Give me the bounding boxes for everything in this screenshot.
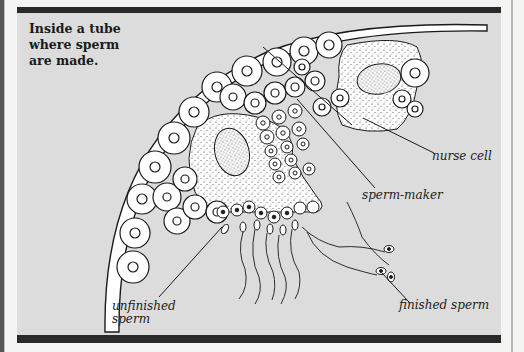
title-line-3: are made.: [29, 53, 189, 69]
label-nurse-cell: nurse cell: [432, 149, 492, 163]
label-finished-sperm: finished sperm: [399, 298, 489, 312]
page-edge-right: [511, 0, 513, 352]
label-unfinished-sperm-line2: sperm: [112, 312, 150, 326]
figure-title: Inside a tube where sperm are made.: [29, 21, 189, 69]
page-edge-left-line: [4, 0, 5, 352]
title-line-2: where sperm: [29, 37, 189, 53]
figure-panel: Inside a tube where sperm are made. nurs…: [17, 7, 501, 343]
label-unfinished-sperm-line1: unfinished: [112, 299, 176, 313]
title-line-1: Inside a tube: [29, 21, 189, 37]
label-sperm-maker: sperm-maker: [362, 188, 443, 202]
